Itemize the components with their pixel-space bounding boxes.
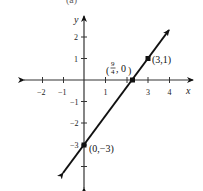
line-graph-figure: (a) −2 −1 1 3 4 x 2 <box>0 0 203 191</box>
paren-close: ) <box>128 65 131 77</box>
x-tick-label: 1 <box>104 88 108 97</box>
y-tick-label: −1 <box>70 98 79 107</box>
x-tick-label: −2 <box>37 88 46 97</box>
x-tick-label: 3 <box>146 88 150 97</box>
point-label-3-1: (3,1) <box>152 54 171 66</box>
y-axis-label: y <box>73 14 79 25</box>
x-axis-label: x <box>185 85 191 96</box>
point-x-intercept <box>130 78 135 83</box>
coordinate-plane: (a) −2 −1 1 3 4 x 2 <box>0 0 203 191</box>
point-label-y-intercept: (0,−3) <box>89 143 114 155</box>
x-tick-label: −1 <box>58 88 67 97</box>
y-tick-label: −2 <box>70 119 79 128</box>
fraction-denominator: 4 <box>111 68 115 76</box>
y-tick-label: 2 <box>74 33 78 42</box>
y-tick-label: −3 <box>70 141 79 150</box>
x-tick-label: 4 <box>168 88 172 97</box>
fraction-numerator: 9 <box>111 60 115 68</box>
paren-open: ( <box>106 65 110 77</box>
point-y-intercept <box>82 143 87 148</box>
caption-partial: (a) <box>66 0 77 6</box>
plotted-line <box>63 30 169 173</box>
point-label-x-intercept: ( 9 4 , 0 ) <box>106 60 131 77</box>
point-label-rest: , 0 <box>116 63 126 74</box>
y-tick-label: 1 <box>74 55 78 64</box>
point-3-1 <box>146 56 151 61</box>
